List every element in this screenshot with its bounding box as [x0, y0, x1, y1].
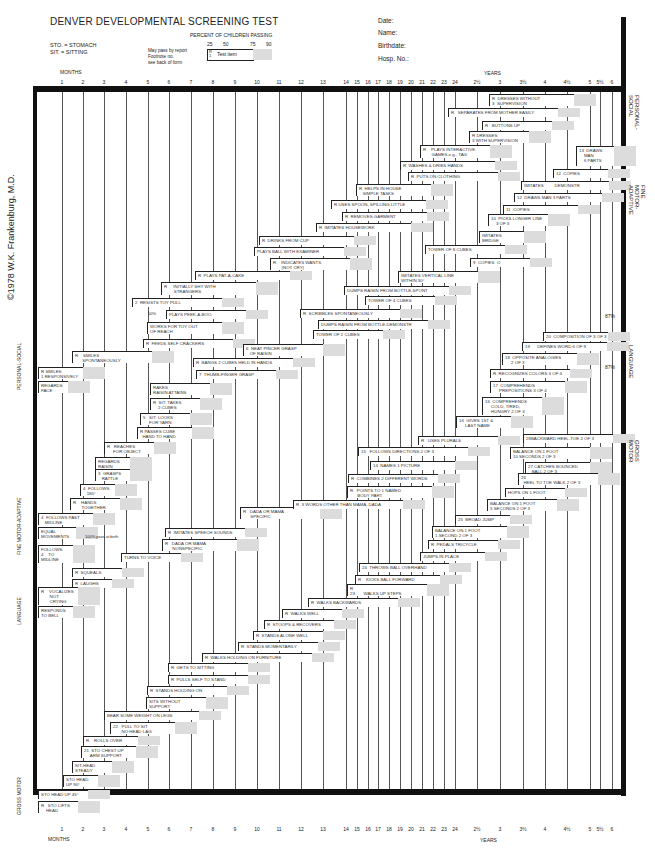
frame-left — [33, 86, 37, 792]
item-label: R DRINKS FROM CUP — [259, 236, 376, 245]
test-item: 3 GRASPS RATTLE — [95, 469, 152, 481]
item-label: 19 DEFINES WORD 6 OF 9 — [522, 342, 629, 351]
age-tick: 11 — [276, 79, 281, 85]
test-item: 14 NAMES 1 PICTURE — [370, 461, 477, 470]
item-label: BALANCE ON 1 FOOT 10 SECONDS 2 OF 3 — [510, 447, 612, 461]
age-gridline — [257, 92, 258, 789]
item-label: 26 HEEL TO TOE WALK 2 OF 3 — [518, 473, 620, 487]
age-tick: 18 — [386, 79, 392, 85]
item-label: 4 FOLLOWS 180° — [80, 484, 137, 498]
age-tick: 4 — [125, 826, 128, 832]
test-item: 17 COMPREHENDS PREPOSITIONS 3 OF 4 — [490, 381, 587, 393]
test-item: R SCRIBBLES SPONTANEOUSLY — [300, 309, 422, 318]
item-label: R GETS TO SITTING — [168, 663, 270, 672]
item-label: IMITATES DEMONSTR — [521, 181, 631, 190]
test-item: R SEPARATES FROM MOTHER EASILY — [448, 108, 580, 117]
test-item: 22 PULL TO SIT NO HEAD LAG — [110, 722, 197, 734]
item-label: R FEEDS SELF CRACKERS — [143, 339, 255, 348]
item-label: 7 THUMB-FINGER GRASP — [196, 370, 298, 379]
abbrev-sitting: SIT. = SITTING — [50, 49, 96, 56]
test-item: R FEEDS SELF CRACKERS — [143, 339, 255, 348]
age-tick: 3 — [103, 826, 106, 832]
item-label: 13 DRAWS MAN 6 PARTS — [576, 146, 636, 165]
section-gross-motor-left: GROSS MOTOR — [16, 777, 22, 815]
test-item: R SMILES SPONTANEOUSLY — [72, 351, 174, 363]
age-tick: 21 — [419, 826, 425, 832]
item-label: 2 RESISTS TOY PULL — [132, 298, 244, 307]
item-label: R PLAYS INTERACTIVE GAMES e.g., TAG — [420, 145, 512, 159]
test-item: R DRINKS FROM CUP — [259, 236, 376, 245]
test-item: 2 RESISTS TOY PULL — [132, 298, 244, 307]
item-label: R RECOGNIZES COLORS 3 OF 4 — [490, 369, 592, 378]
item-label: R INDICATES WANTS (NOT CRY) — [270, 258, 372, 272]
item-label: STO HEAD UP 45° — [38, 790, 110, 799]
test-item: R STANDS MOMENTARILY — [238, 642, 340, 651]
test-item: R STANDS HOLDING ON — [147, 686, 249, 695]
test-item: R VOCALIZES NOT CRYING — [38, 587, 100, 605]
months-label-bottom: MONTHS — [48, 836, 70, 842]
test-item: 18 OPPOSITE ANALOGIES 2 OF 3 — [502, 353, 599, 365]
test-item: DUMPS RAISIN FROM BOTTLE-SPONT — [344, 286, 471, 295]
test-item: 20 COMPOSITION OF 3 OF 3 — [543, 332, 630, 341]
age-tick: 9 — [234, 826, 237, 832]
test-item: R COMBINES 2 DIFFERENT WORDS — [348, 474, 460, 483]
test-item: R WASHES & DRIES HANDS — [400, 161, 517, 170]
item-label: IMITATES BRIDGE — [479, 231, 546, 245]
item-label: R USES PLURALS — [418, 436, 520, 445]
test-item: R PEDALS TRICYCLE — [428, 540, 520, 549]
item-label: R 23 WALKS UP STEPS — [347, 584, 449, 598]
test-item-key: R1 Test item — [207, 49, 272, 60]
test-item: 25 BROAD JUMP — [455, 515, 532, 524]
test-item: R GETS TO SITTING — [168, 663, 270, 672]
item-label: R STOOPS & RECOVERS — [264, 620, 356, 629]
age-gridline — [235, 92, 236, 789]
age-tick: 1 — [61, 826, 64, 832]
test-item: R REACHES FOR OBJECT — [104, 442, 176, 454]
age-tick: 2½ — [474, 826, 481, 832]
item-label: JUMPS IN PLACE — [420, 552, 507, 561]
item-label: 17 COMPREHENDS PREPOSITIONS 3 OF 4 — [490, 381, 587, 395]
fifty-pct-note: 50% — [148, 311, 156, 316]
item-label: BALANCE ON 1 FOOT 1 SECOND 2 OF 3 — [432, 526, 529, 540]
age-tick: 1 — [61, 79, 64, 85]
item-label: R USES SPOON, SPILLING LITTLE — [331, 200, 448, 209]
test-item: R HANDS TOGETHER — [70, 498, 142, 510]
hosp-no-field[interactable]: Hosp. No.: — [378, 55, 409, 62]
name-field[interactable]: Name: — [378, 29, 397, 36]
age-gridline — [62, 92, 63, 789]
age-tick: 18 — [386, 826, 392, 832]
item-label: R PASSES CUBE HAND TO HAND — [137, 427, 214, 441]
test-item: R PLAYS PAT-A-CAKE — [195, 271, 312, 280]
item-label: R SMILES 1 RESPONSIVELY — [38, 367, 105, 381]
item-label: R STANDS HOLDING ON — [147, 686, 249, 695]
test-item: R IMITATES HOUSEWORK — [316, 223, 433, 232]
age-tick: 5 — [147, 826, 150, 832]
frame-right — [621, 17, 626, 796]
age-tick: 6 — [168, 826, 171, 832]
test-item: BALANCE ON 1 FOOT 1 SECOND 2 OF 3 — [432, 526, 529, 538]
item-label: 10 PICKS LONGER LINE 3 OF 3 — [488, 214, 570, 228]
item-label: 4 FOLLOWS PAST MIDLINE — [38, 513, 115, 527]
age-tick: 23 — [441, 79, 447, 85]
item-label: SITS WITHOUT SUPPORT — [146, 697, 228, 711]
form-title: DENVER DEVELOPMENTAL SCREENING TEST — [50, 16, 279, 27]
date-field[interactable]: Date: — [378, 17, 394, 24]
key-notes: May pass by report Footnote no. see back… — [148, 48, 187, 66]
age-tick: 4 — [125, 79, 128, 85]
test-item: 16 GIVES 1ST & LAST NAME — [456, 416, 533, 428]
age-tick: 13 — [320, 826, 326, 832]
item-label: 28BACKWARD HEEL-TOE 2 OF 3 — [523, 434, 635, 443]
age-tick: 2½ — [474, 79, 481, 85]
test-item: R INITIALLY SHY WITH STRANGERS — [161, 282, 278, 295]
birthdate-field[interactable]: Birthdate: — [378, 42, 406, 49]
item-label: R WALKS BACKWARDS — [308, 598, 420, 607]
item-label: IMITATES VERTICAL LINE WITHIN 30° — [398, 271, 500, 285]
item-label: R SEPARATES FROM MOTHER EASILY — [448, 108, 580, 117]
item-label: DUMPS RAISIN FROM BOTTLE-SPONT — [344, 286, 471, 295]
test-item: R ROLLS OVER — [83, 736, 160, 745]
test-item: 26 HEEL TO TOE WALK 2 OF 3 — [518, 473, 620, 485]
test-item: 24 THROWS BALL OVERHAND — [359, 563, 471, 572]
item-label: R STO LIFTS HEAD — [38, 801, 100, 815]
test-item: 9 COPIES O — [470, 258, 552, 267]
test-item: R IMITATES SPEECH SOUNDS — [165, 528, 267, 537]
